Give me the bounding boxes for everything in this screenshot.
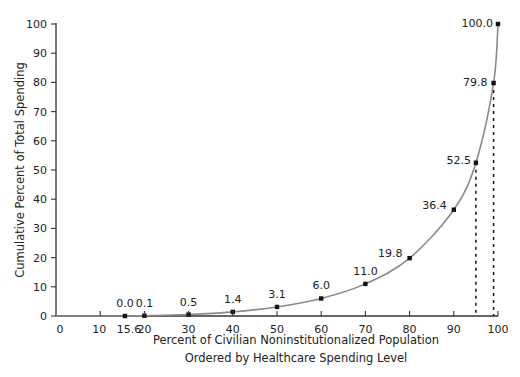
data-point-marker xyxy=(496,22,500,26)
y-axis-ticks: 0102030405060708090100 xyxy=(26,18,56,323)
data-point-label: 52.5 xyxy=(446,154,471,167)
data-point-marker xyxy=(491,81,495,85)
y-tick-label: 40 xyxy=(33,193,47,206)
data-point-label: 19.8 xyxy=(378,247,403,260)
y-tick-label: 70 xyxy=(33,106,47,119)
data-labels: 0.00.10.51.43.16.011.019.836.452.579.810… xyxy=(116,17,493,310)
y-tick-label: 0 xyxy=(40,310,47,323)
data-point-label: 0.5 xyxy=(180,296,198,309)
x-tick-label: 10 xyxy=(92,323,106,336)
y-tick-label: 20 xyxy=(33,252,47,265)
data-point-label: 0.1 xyxy=(136,297,154,310)
x-axis-label-line1: Percent of Civilian Noninstitutionalized… xyxy=(153,333,439,347)
data-point-label: 79.8 xyxy=(463,76,488,89)
y-axis-label: Cumulative Percent of Total Spending xyxy=(13,62,27,278)
data-point-marker xyxy=(123,314,127,318)
data-point-label: 11.0 xyxy=(353,265,378,278)
dashed-guides xyxy=(476,83,494,316)
cumulative-curve xyxy=(56,24,498,316)
data-point-label: 6.0 xyxy=(312,279,330,292)
data-markers xyxy=(123,22,500,318)
y-tick-label: 90 xyxy=(33,47,47,60)
data-point-label: 100.0 xyxy=(462,17,494,30)
data-point-label: 36.4 xyxy=(422,199,447,212)
y-tick-label: 60 xyxy=(33,135,47,148)
y-tick-label: 100 xyxy=(26,18,47,31)
data-point-marker xyxy=(407,256,411,260)
y-tick-label: 80 xyxy=(33,76,47,89)
data-point-marker xyxy=(275,305,279,309)
x-tick-label: 0 xyxy=(57,323,64,336)
y-tick-label: 30 xyxy=(33,222,47,235)
data-point-marker xyxy=(319,296,323,300)
axes xyxy=(56,23,498,316)
x-tick-label: 90 xyxy=(447,323,461,336)
data-point-label: 1.4 xyxy=(224,293,242,306)
data-point-marker xyxy=(474,161,478,165)
x-tick-label: 100 xyxy=(488,323,509,336)
x-axis-label-line2: Ordered by Healthcare Spending Level xyxy=(185,351,408,365)
y-tick-label: 50 xyxy=(33,164,47,177)
data-point-marker xyxy=(452,208,456,212)
data-point-marker xyxy=(363,282,367,286)
x-tick-label: 20 xyxy=(137,323,151,336)
cumulative-spending-chart: 0.00.10.51.43.16.011.019.836.452.579.810… xyxy=(0,0,520,377)
y-tick-label: 10 xyxy=(33,281,47,294)
data-point-label: 0.0 xyxy=(116,297,134,310)
data-point-label: 3.1 xyxy=(268,288,286,301)
